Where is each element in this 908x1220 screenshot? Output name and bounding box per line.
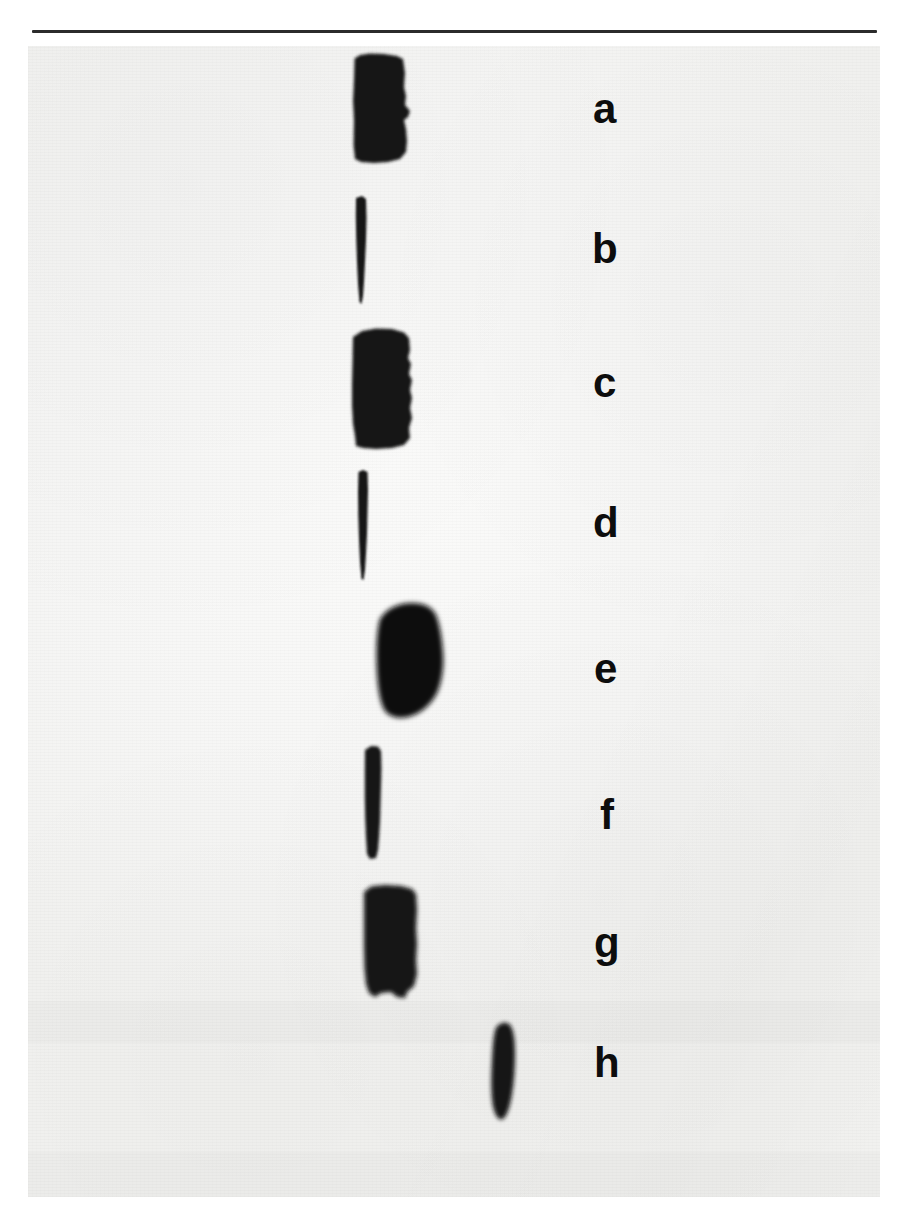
lane-label-g: g — [594, 922, 620, 964]
gel-band-a — [348, 49, 418, 167]
gel-band-e — [364, 597, 456, 725]
lane-label-b: b — [592, 228, 618, 270]
lane-label-f: f — [600, 794, 614, 836]
gel-band-h — [481, 1016, 527, 1126]
page-top-rule — [32, 30, 877, 33]
figure-page: a b c d e f g h — [0, 0, 908, 1220]
gel-band-d — [352, 466, 376, 588]
gel-band-g — [357, 880, 425, 1002]
lane-label-a: a — [593, 88, 616, 130]
lane-label-e: e — [594, 648, 617, 690]
gel-band-c — [346, 324, 422, 456]
scan-shade-upper — [28, 1001, 880, 1043]
lane-label-c: c — [593, 362, 616, 404]
gel-band-f — [358, 740, 390, 866]
scan-shade-lower — [28, 1152, 880, 1197]
lane-label-d: d — [593, 502, 619, 544]
lane-label-h: h — [594, 1042, 620, 1084]
gel-band-b — [350, 192, 374, 310]
